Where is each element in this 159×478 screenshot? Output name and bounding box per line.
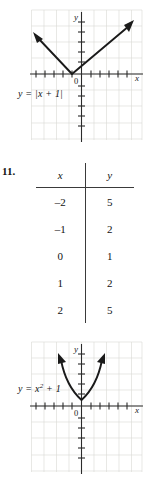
table-cell-y: 2: [85, 215, 134, 242]
table-cell-x: 2: [36, 296, 85, 323]
x-axis-label: x: [134, 405, 139, 415]
table-cell-y: 2: [85, 269, 134, 296]
grid-vertical-lines: [32, 342, 143, 472]
table-row: 0 1: [36, 242, 134, 269]
table-header-y: y: [85, 163, 134, 188]
problem-number: 11.: [2, 165, 15, 177]
table-header-x: x: [36, 163, 85, 188]
y-axis-label: y: [73, 344, 78, 354]
equation-suffix: + 1: [43, 383, 61, 394]
table-header-row: x y: [36, 163, 134, 188]
table-cell-x: –2: [36, 188, 85, 216]
table-row: 2 5: [36, 296, 134, 323]
table-cell-x: 0: [36, 242, 85, 269]
x-axis-label: x: [134, 73, 139, 83]
curve-arrow-left: [58, 353, 66, 364]
graph-parabola: y x 0: [30, 340, 143, 474]
table-cell-y: 5: [85, 296, 134, 323]
equation-parabola: y = x2 + 1: [18, 382, 61, 394]
table-cell-y: 5: [85, 188, 134, 216]
table-cell-x: 1: [36, 269, 85, 296]
equation-absolute-value: y = |x + 1|: [18, 88, 63, 99]
table-row: 1 2: [36, 269, 134, 296]
equation-prefix: y = x: [18, 383, 40, 394]
table-row: –1 2: [36, 215, 134, 242]
y-axis-label: y: [73, 12, 78, 22]
table-cell-y: 1: [85, 242, 134, 269]
table-cell-x: –1: [36, 215, 85, 242]
origin-label: 0: [74, 76, 78, 86]
curve-arrow-right: [97, 353, 105, 364]
graph-absolute-value: y x 0: [30, 8, 143, 142]
table-row: –2 5: [36, 188, 134, 216]
origin-label: 0: [74, 408, 78, 418]
value-table: x y –2 5 –1 2 0 1 1 2 2 5: [36, 163, 134, 323]
